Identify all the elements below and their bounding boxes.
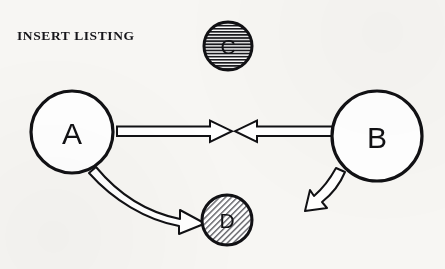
arrow-a-to-d-shape <box>89 167 205 234</box>
arrow-b-to-midpoint-shape <box>235 121 334 142</box>
diagram-root: C D A B INSERT LISTING <box>0 0 445 269</box>
arrow-b-outward-shape <box>305 168 345 211</box>
caption-insert-listing: INSERT LISTING <box>17 28 135 44</box>
node-a[interactable]: A <box>31 91 113 173</box>
node-b-label: B <box>367 121 387 154</box>
edge-b-outward <box>305 168 345 211</box>
node-b[interactable]: B <box>332 91 422 181</box>
node-a-label: A <box>62 117 82 150</box>
arrow-a-to-midpoint-shape <box>117 121 232 142</box>
node-d[interactable]: D <box>202 195 252 245</box>
edge-b-to-midpoint <box>235 121 334 142</box>
node-d-label: D <box>219 209 234 232</box>
node-c[interactable]: C <box>204 22 252 70</box>
node-c-label: C <box>220 35 235 58</box>
edge-a-to-midpoint <box>117 121 232 142</box>
edge-a-to-d <box>89 167 205 234</box>
